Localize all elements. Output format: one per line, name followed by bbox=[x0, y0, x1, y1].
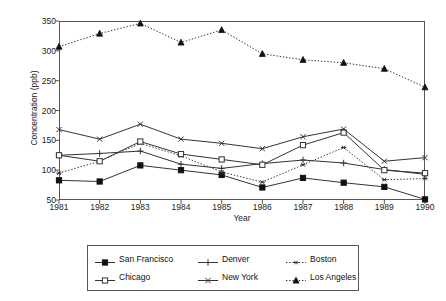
legend-item-label: Boston bbox=[310, 254, 336, 264]
legend-item-label: San Francisco bbox=[119, 254, 173, 264]
chart-figure: Concentration (ppb) 50100150200250300350… bbox=[0, 0, 446, 301]
boston-key-icon bbox=[285, 254, 307, 265]
x-tick-label: 1983 bbox=[131, 202, 150, 212]
x-tick-label: 1984 bbox=[172, 202, 191, 212]
y-tick-label: 300 bbox=[42, 46, 56, 56]
legend-item-label: Denver bbox=[222, 254, 249, 264]
x-tick-label: 1986 bbox=[253, 202, 272, 212]
legend-item[interactable]: Chicago bbox=[94, 272, 197, 283]
legend-item[interactable]: New York bbox=[197, 272, 285, 283]
x-tick-label: 1990 bbox=[416, 202, 435, 212]
legend-item-label: Chicago bbox=[119, 272, 150, 282]
x-tick-label: 1988 bbox=[334, 202, 353, 212]
legend-item-label: Los Angeles bbox=[310, 272, 356, 282]
y-tick-label: 150 bbox=[42, 135, 56, 145]
y-tick-label: 350 bbox=[42, 16, 56, 26]
denver-key-icon bbox=[197, 254, 219, 265]
plot-area bbox=[59, 21, 425, 200]
x-tick-label: 1982 bbox=[90, 202, 109, 212]
y-tick-label: 100 bbox=[42, 165, 56, 175]
legend-grid: San FranciscoDenverBostonChicagoNew York… bbox=[94, 250, 352, 286]
x-tick-label: 1989 bbox=[375, 202, 394, 212]
legend-item-label: New York bbox=[222, 272, 258, 282]
x-tick-label: 1987 bbox=[294, 202, 313, 212]
losangeles-key-icon bbox=[285, 272, 307, 283]
chicago-key-icon bbox=[94, 272, 116, 283]
legend: San FranciscoDenverBostonChicagoNew York… bbox=[87, 245, 359, 291]
legend-item[interactable]: Boston bbox=[285, 254, 365, 265]
sf-key-icon bbox=[94, 254, 116, 265]
legend-item[interactable]: Denver bbox=[197, 254, 285, 265]
legend-item[interactable]: Los Angeles bbox=[285, 272, 365, 283]
x-tick-label: 1985 bbox=[212, 202, 231, 212]
legend-item[interactable]: San Francisco bbox=[94, 254, 197, 265]
x-axis-label: Year bbox=[59, 213, 425, 223]
y-tick-label: 250 bbox=[42, 76, 56, 86]
y-tick-label: 200 bbox=[42, 106, 56, 116]
y-axis-ticks: 50100150200250300350 bbox=[20, 0, 56, 301]
x-tick-label: 1981 bbox=[50, 202, 69, 212]
newyork-key-icon bbox=[197, 272, 219, 283]
